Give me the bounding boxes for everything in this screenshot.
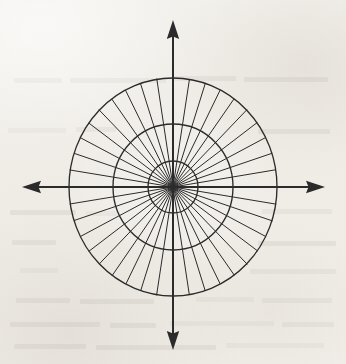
radial-spoke-306deg	[173, 187, 234, 275]
radial-spoke-342deg	[173, 187, 272, 221]
y-axis-negative-arrowhead	[167, 331, 179, 350]
radial-spoke-135deg	[99, 110, 173, 187]
radial-spoke-252deg	[141, 187, 173, 290]
polar-grid-figure	[0, 0, 346, 364]
radial-spoke-288deg	[173, 187, 205, 290]
radial-spoke-126deg	[112, 99, 173, 187]
y-axis-positive-arrowhead	[167, 20, 179, 39]
radial-spoke-324deg	[173, 187, 258, 251]
radial-spoke-234deg	[112, 187, 173, 275]
radial-spoke-315deg	[173, 187, 247, 264]
radial-spoke-72deg	[173, 84, 205, 187]
axis-arrows-group	[22, 20, 325, 350]
x-axis-negative-arrowhead	[22, 181, 41, 193]
radial-spoke-225deg	[99, 187, 173, 264]
radial-spoke-198deg	[74, 187, 173, 220]
radial-spoke-162deg	[74, 153, 173, 187]
radial-spoke-54deg	[173, 99, 234, 187]
x-axis-positive-arrowhead	[306, 181, 325, 193]
polar-grid-diagram	[0, 0, 346, 364]
radial-spoke-144deg	[89, 123, 173, 187]
radial-spoke-216deg	[89, 187, 173, 251]
radial-spoke-108deg	[141, 84, 173, 187]
radial-spoke-36deg	[173, 123, 257, 187]
radial-spoke-45deg	[173, 110, 247, 187]
radial-spoke-18deg	[173, 153, 272, 187]
